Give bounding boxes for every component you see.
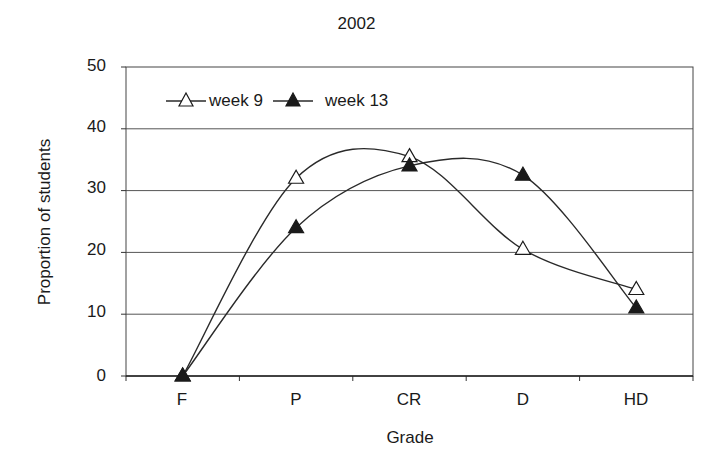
axis-ticks xyxy=(121,67,693,381)
series-lines xyxy=(175,149,644,381)
filled-triangle-icon xyxy=(286,93,300,106)
open-triangle-marker-icon xyxy=(289,170,304,183)
legend xyxy=(166,93,313,106)
line-chart xyxy=(0,0,713,470)
plot-area xyxy=(126,67,693,376)
filled-triangle-marker-icon xyxy=(289,220,304,233)
series-line-week9 xyxy=(183,149,637,376)
filled-triangle-marker-icon xyxy=(515,167,530,180)
open-triangle-icon xyxy=(179,93,193,106)
open-triangle-marker-icon xyxy=(515,241,530,254)
